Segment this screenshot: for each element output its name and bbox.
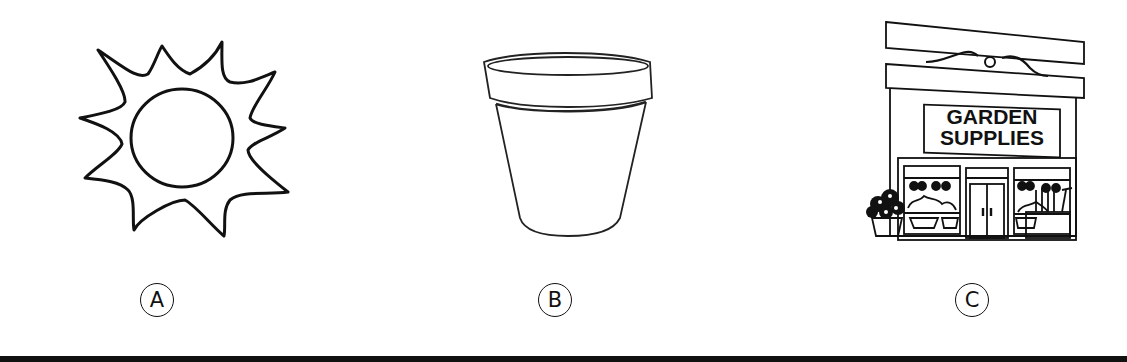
flower-pot-icon	[460, 52, 680, 252]
option-a-label[interactable]: A	[140, 283, 174, 317]
store-sign-line2: SUPPLIES	[940, 126, 1044, 149]
option-b[interactable]: B	[420, 0, 700, 340]
option-a[interactable]: A	[0, 0, 320, 340]
bottom-divider	[0, 356, 1127, 362]
option-b-label[interactable]: B	[538, 283, 572, 317]
store-sign-line1: GARDEN	[946, 105, 1037, 128]
garden-store-icon: GARDEN SUPPLIES	[850, 18, 1110, 248]
sun-icon	[30, 30, 290, 260]
option-c[interactable]: GARDEN SUPPLIES C	[830, 0, 1120, 340]
option-c-label[interactable]: C	[955, 283, 989, 317]
